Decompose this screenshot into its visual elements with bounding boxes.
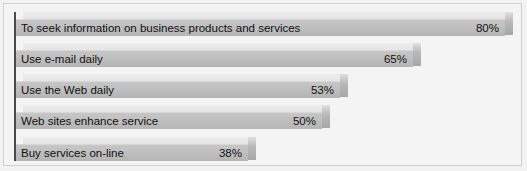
bar-value-label: 53% [15,82,334,98]
bar-value-label: 50% [15,113,316,129]
bar-value-label: 38% [15,145,242,161]
bar-row: Web sites enhance service 50% [15,105,330,129]
bar-value-label: 65% [15,51,407,67]
bar-row: Buy services on-line 38% [15,137,256,161]
plot-area: To seek information on business products… [0,0,527,171]
bar-chart: To seek information on business products… [0,0,527,171]
bar-value-label: 80% [15,20,499,36]
bar-end-cap [322,105,330,128]
category-axis [14,12,16,161]
bar-row: To seek information on business products… [15,12,513,36]
bar-end-cap [340,74,348,97]
bar-end-cap [505,12,513,35]
bar-row: Use the Web daily 53% [15,74,348,98]
bar-row: Use e-mail daily 65% [15,43,421,67]
bar-end-cap [413,43,421,66]
bar-end-cap [248,137,256,160]
